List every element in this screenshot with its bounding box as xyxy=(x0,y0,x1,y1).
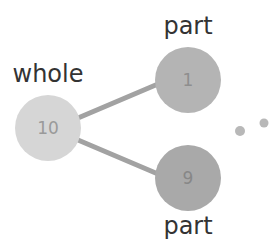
connector-line-bottom xyxy=(78,140,158,174)
decorative-dot xyxy=(260,119,269,128)
decorative-dot xyxy=(235,126,245,136)
whole-label: whole xyxy=(13,62,84,86)
whole-value: 10 xyxy=(37,118,59,138)
connector-line-top xyxy=(78,84,158,118)
part-bottom-value: 9 xyxy=(183,168,194,188)
part-bottom-circle: 9 xyxy=(155,145,221,211)
part-top-label: part xyxy=(163,14,212,38)
part-bottom-label: part xyxy=(163,214,212,238)
part-whole-diagram: whole 10 part 1 9 part xyxy=(0,0,277,241)
part-top-value: 1 xyxy=(183,70,194,90)
whole-circle: 10 xyxy=(15,95,81,161)
part-top-circle: 1 xyxy=(155,47,221,113)
